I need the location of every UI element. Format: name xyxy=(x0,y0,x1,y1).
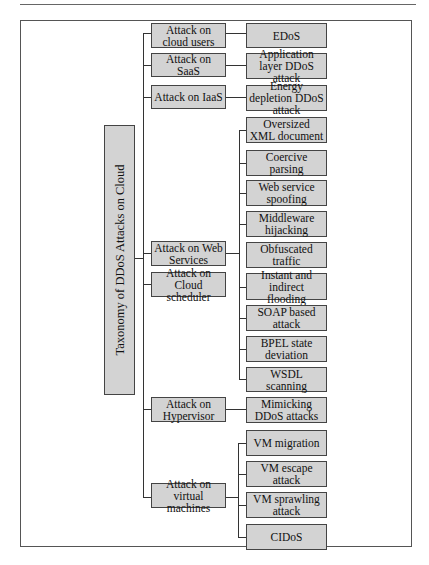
attack-coercive-parsing: Coercive parsing xyxy=(246,150,327,176)
category-cloud-scheduler: Attack on Cloud scheduler xyxy=(151,272,226,297)
attack-instant-indirect-flooding: Instant and indirect flooding xyxy=(246,273,327,300)
attack-vm-sprawling: VM sprawling attack xyxy=(246,492,327,518)
connector xyxy=(226,65,246,66)
attack-wsdl-scanning: WSDL scanning xyxy=(246,367,327,392)
root-label: Taxonomy of DDoS Attacks on Cloud xyxy=(112,164,127,355)
category-hypervisor: Attack on Hypervisor xyxy=(151,397,226,422)
attack-obfuscated-traffic: Obfuscated traffic xyxy=(246,242,327,268)
connector xyxy=(143,97,151,98)
category-virtual-machines: Attack on virtual machines xyxy=(151,483,226,508)
main-trunk-line xyxy=(143,33,144,498)
connector xyxy=(238,537,246,538)
connector xyxy=(143,253,151,254)
attack-vm-migration: VM migration xyxy=(246,430,327,456)
connector xyxy=(239,224,246,225)
root-connector xyxy=(135,258,143,259)
attack-middleware-hijacking: Middleware hijacking xyxy=(246,211,327,237)
connector xyxy=(143,65,151,66)
attack-energy-depletion: Energy depletion DDoS attack xyxy=(246,85,327,111)
attack-soap-based: SOAP based attack xyxy=(246,305,327,331)
connector xyxy=(239,163,246,164)
web-services-branch-line-tail xyxy=(239,349,240,379)
category-cloud-users: Attack on cloud users xyxy=(151,23,226,48)
attack-application-layer: Application layer DDoS attack xyxy=(246,53,327,79)
connector xyxy=(239,379,246,380)
attack-vm-escape: VM escape attack xyxy=(246,461,327,487)
attack-bpel-state-deviation: BPEL state deviation xyxy=(246,336,327,362)
connector xyxy=(226,97,246,98)
connector xyxy=(226,253,239,254)
page-header-rule xyxy=(20,4,416,5)
root-node: Taxonomy of DDoS Attacks on Cloud xyxy=(104,125,135,395)
connector xyxy=(226,409,246,410)
connector xyxy=(239,193,246,194)
connector xyxy=(238,474,246,475)
connector xyxy=(143,33,151,34)
connector xyxy=(226,33,246,34)
attack-cidos: CIDoS xyxy=(246,524,327,550)
connector xyxy=(239,287,246,288)
connector xyxy=(239,349,246,350)
connector xyxy=(143,497,151,498)
connector xyxy=(143,409,151,410)
vm-branch-line xyxy=(238,443,239,538)
connector xyxy=(143,284,151,285)
connector xyxy=(238,443,246,444)
category-web-services: Attack on Web Services xyxy=(151,241,226,266)
attack-edos: EDoS xyxy=(246,23,327,48)
connector xyxy=(239,130,246,131)
attack-web-service-spoofing: Web service spoofing xyxy=(246,180,327,206)
attack-mimicking-ddos: Mimicking DDoS attacks xyxy=(246,397,327,423)
category-saas: Attack on SaaS xyxy=(151,53,226,77)
connector xyxy=(238,505,246,506)
attack-oversized-xml: Oversized XML document xyxy=(246,117,327,143)
category-iaas: Attack on IaaS xyxy=(151,85,226,109)
connector xyxy=(239,318,246,319)
connector xyxy=(226,497,238,498)
